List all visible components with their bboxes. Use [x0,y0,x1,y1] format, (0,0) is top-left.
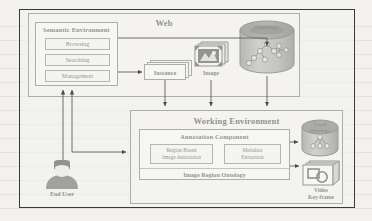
diagram-outer-frame [19,9,355,208]
